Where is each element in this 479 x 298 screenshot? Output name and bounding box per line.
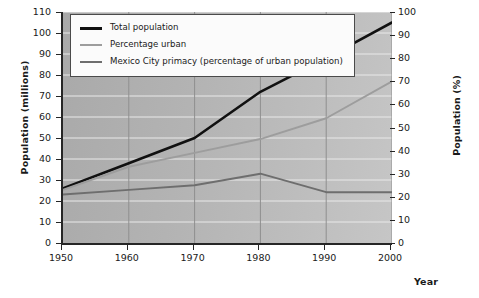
y-axis-right-tick bbox=[390, 104, 395, 105]
y-axis-right-tick bbox=[390, 197, 395, 198]
x-axis-tick bbox=[127, 245, 128, 250]
y-axis-right-tick-label: 60 bbox=[398, 98, 410, 109]
y-axis-left-tick bbox=[56, 222, 61, 223]
y-axis-right-tick bbox=[390, 12, 395, 13]
y-axis-left-tick-label: 60 bbox=[11, 111, 51, 122]
x-axis-tick-label: 2000 bbox=[365, 252, 415, 263]
y-axis-left-tick-label: 10 bbox=[11, 216, 51, 227]
y-axis-right-tick-label: 40 bbox=[398, 145, 410, 156]
y-axis-right-tick-label: 90 bbox=[398, 29, 410, 40]
y-axis-left-tick-label: 0 bbox=[11, 237, 51, 248]
chart-legend: Total populationPercentage urbanMexico C… bbox=[70, 14, 355, 77]
y-axis-right-tick bbox=[390, 58, 395, 59]
y-axis-right-tick-label: 0 bbox=[398, 237, 404, 248]
y-axis-right-tick-label: 70 bbox=[398, 75, 410, 86]
legend-item: Percentage urban bbox=[80, 39, 343, 50]
legend-line-swatch bbox=[80, 44, 102, 46]
y-axis-right-tick bbox=[390, 35, 395, 36]
y-axis-right-tick bbox=[390, 220, 395, 221]
y-axis-left-tick bbox=[56, 33, 61, 34]
x-axis-tick-label: 1950 bbox=[36, 252, 86, 263]
y-axis-right-tick-label: 100 bbox=[398, 6, 416, 17]
legend-line-swatch bbox=[80, 27, 102, 30]
y-axis-left-tick-label: 80 bbox=[11, 69, 51, 80]
y-axis-left-tick bbox=[56, 201, 61, 202]
y-axis-left-tick bbox=[56, 75, 61, 76]
y-axis-left-tick-label: 90 bbox=[11, 48, 51, 59]
y-axis-left-tick bbox=[56, 243, 61, 244]
x-axis-tick bbox=[258, 245, 259, 250]
y-axis-right-tick-label: 20 bbox=[398, 191, 410, 202]
legend-item: Total population bbox=[80, 22, 343, 33]
y-axis-left-tick-label: 20 bbox=[11, 195, 51, 206]
y-axis-left-tick-label: 50 bbox=[11, 132, 51, 143]
x-axis-tick bbox=[61, 245, 62, 250]
legend-item-label: Mexico City primacy (percentage of urban… bbox=[110, 56, 343, 67]
y-axis-left-tick-label: 40 bbox=[11, 153, 51, 164]
y-axis-right-tick-label: 30 bbox=[398, 168, 410, 179]
y-axis-right-tick bbox=[390, 174, 395, 175]
y-axis-right-tick bbox=[390, 151, 395, 152]
x-axis-tick-label: 1980 bbox=[233, 252, 283, 263]
series-line bbox=[63, 81, 392, 190]
y-axis-left-tick bbox=[56, 159, 61, 160]
y-axis-left-tick bbox=[56, 96, 61, 97]
y-axis-left-tick-label: 100 bbox=[11, 27, 51, 38]
y-axis-left-tick bbox=[56, 180, 61, 181]
legend-item-label: Percentage urban bbox=[110, 39, 186, 50]
x-axis-title: Year bbox=[414, 276, 438, 287]
y-axis-left-tick-label: 110 bbox=[11, 6, 51, 17]
series-line bbox=[63, 174, 392, 195]
y-axis-left-tick bbox=[56, 12, 61, 13]
x-axis-tick-label: 1990 bbox=[299, 252, 349, 263]
x-axis-tick bbox=[324, 245, 325, 250]
y-axis-right-tick bbox=[390, 243, 395, 244]
y-axis-right-title: Population (%) bbox=[451, 46, 462, 186]
y-axis-left-tick-label: 30 bbox=[11, 174, 51, 185]
y-axis-right-tick bbox=[390, 81, 395, 82]
population-line-chart: Population (millions) Population (%) Yea… bbox=[0, 0, 479, 298]
x-axis-tick bbox=[390, 245, 391, 250]
y-axis-right-tick-label: 50 bbox=[398, 122, 410, 133]
y-axis-left-tick bbox=[56, 138, 61, 139]
y-axis-right-tick-label: 10 bbox=[398, 214, 410, 225]
x-axis-tick-label: 1970 bbox=[168, 252, 218, 263]
y-axis-left-tick bbox=[56, 54, 61, 55]
y-axis-left-tick bbox=[56, 117, 61, 118]
y-axis-left-tick-label: 70 bbox=[11, 90, 51, 101]
x-axis-tick bbox=[193, 245, 194, 250]
legend-item: Mexico City primacy (percentage of urban… bbox=[80, 56, 343, 67]
y-axis-right-tick bbox=[390, 128, 395, 129]
x-axis-tick-label: 1960 bbox=[102, 252, 152, 263]
legend-line-swatch bbox=[80, 61, 102, 63]
legend-item-label: Total population bbox=[110, 22, 179, 33]
y-axis-right-tick-label: 80 bbox=[398, 52, 410, 63]
